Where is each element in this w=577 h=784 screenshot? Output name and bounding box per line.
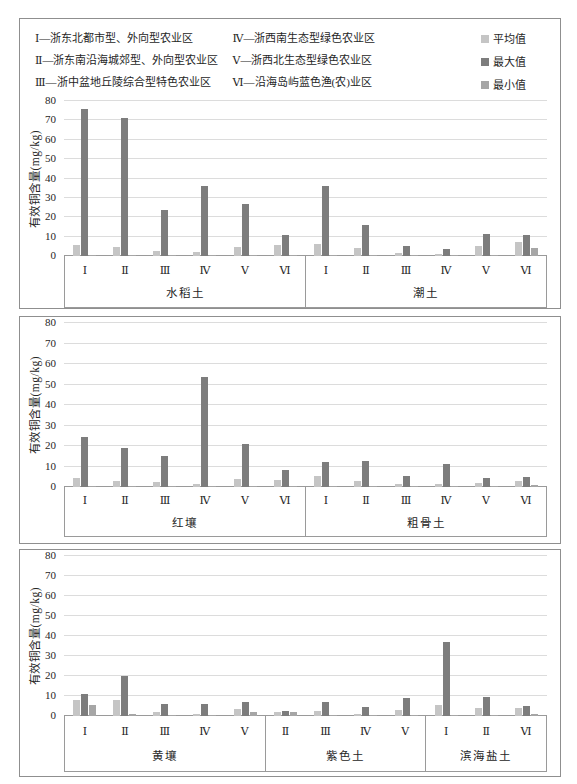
legend-label-minimum: 最小值 xyxy=(493,79,526,91)
chart-yellow-purple-saline: 有效铜含量(mg/kg)01020304050607080ⅠⅡⅢⅣⅤ黄壤ⅡⅢⅣⅤ… xyxy=(20,550,560,772)
zone-label-Ⅴ: Ⅴ xyxy=(225,264,265,277)
bar-avg xyxy=(274,712,281,716)
bar-min xyxy=(129,714,136,716)
zone-label-Ⅳ: Ⅳ xyxy=(426,494,466,507)
zone-labels-row: ⅠⅡⅢⅣⅤⅥ xyxy=(306,487,546,511)
y-tick-label: 30 xyxy=(24,191,56,204)
bar-group-水稻土-Ⅳ xyxy=(185,101,225,256)
bar-group-水稻土-Ⅱ xyxy=(104,101,144,256)
bar-max xyxy=(322,702,329,716)
bar-max xyxy=(362,707,369,716)
legend-label-average: 平均值 xyxy=(493,33,526,45)
bar-avg xyxy=(475,708,482,716)
bar-group-粗骨土-Ⅳ xyxy=(426,323,466,487)
bar-avg xyxy=(475,246,482,256)
zone-definitions-col-1: Ⅰ—浙东北都市型、外向型农业区 Ⅱ—浙东南沿海城郊型、外向型农业区 Ⅲ—浙中盆地… xyxy=(35,31,218,89)
bar-avg xyxy=(314,244,321,256)
y-tick-label: 50 xyxy=(24,609,56,622)
y-tick-label: 10 xyxy=(24,689,56,702)
series-legend: 平均值 最大值 最小值 xyxy=(481,31,550,91)
y-tick-label: 10 xyxy=(24,230,56,243)
bar-group-黄壤-Ⅳ xyxy=(185,556,225,716)
y-tick-label: 70 xyxy=(24,113,56,126)
figure-legend: Ⅰ—浙东北都市型、外向型农业区 Ⅱ—浙东南沿海城郊型、外向型农业区 Ⅲ—浙中盆地… xyxy=(20,19,560,93)
figure-page: Ⅰ—浙东北都市型、外向型农业区 Ⅱ—浙东南沿海城郊型、外向型农业区 Ⅲ—浙中盆地… xyxy=(0,0,577,784)
y-tick-label: 40 xyxy=(24,398,56,411)
bar-group-紫色土-Ⅴ xyxy=(386,556,426,716)
zone-label-Ⅲ: Ⅲ xyxy=(386,494,426,507)
average-swatch-icon xyxy=(481,35,489,43)
zone-label-Ⅵ: Ⅵ xyxy=(506,494,546,507)
bar-min xyxy=(209,486,216,487)
y-tick-label: 80 xyxy=(24,94,56,107)
soil-section-粗骨土: ⅠⅡⅢⅣⅤⅥ粗骨土 xyxy=(306,487,546,536)
zone-label-Ⅰ: Ⅰ xyxy=(65,494,105,507)
bar-avg xyxy=(395,484,402,487)
y-tick-label: 0 xyxy=(24,480,56,493)
bar-max xyxy=(161,456,168,487)
bar-max xyxy=(403,246,410,256)
bar-avg xyxy=(354,248,361,256)
zone-label-Ⅱ: Ⅱ xyxy=(346,494,386,507)
bar-avg xyxy=(435,705,442,716)
zone-label-Ⅵ: Ⅵ xyxy=(506,725,546,738)
zone-label-Ⅲ: Ⅲ xyxy=(306,725,346,738)
y-tick-label: 60 xyxy=(24,133,56,146)
y-tick-label: 40 xyxy=(24,172,56,185)
bar-max xyxy=(242,204,249,256)
bar-group-粗骨土-Ⅴ xyxy=(467,323,507,487)
zone-label-Ⅲ: Ⅲ xyxy=(145,725,185,738)
bar-max xyxy=(483,697,490,716)
bar-max xyxy=(201,377,208,487)
soil-section-滨海盐土: ⅠⅡⅥ滨海盐土 xyxy=(426,716,546,771)
legend-label-maximum: 最大值 xyxy=(493,56,526,68)
bar-max xyxy=(81,109,88,256)
bar-min xyxy=(290,255,297,256)
bar-avg xyxy=(193,714,200,716)
zone-definitions-col-2: Ⅳ—浙西南生态型绿色农业区 Ⅴ—浙西北生态型绿色农业区 Ⅵ—沿海岛屿蓝色渔(农)… xyxy=(232,31,375,89)
bar-max xyxy=(161,704,168,716)
bar-min xyxy=(129,255,136,256)
bar-max xyxy=(523,706,530,716)
bar-max xyxy=(201,704,208,716)
bar-avg xyxy=(73,478,80,487)
soil-section-潮土: ⅠⅡⅢⅣⅤⅥ潮土 xyxy=(306,256,546,307)
zone-label-Ⅲ: Ⅲ xyxy=(145,264,185,277)
soil-section-红壤: ⅠⅡⅢⅣⅤⅥ红壤 xyxy=(65,487,306,536)
bar-avg xyxy=(234,479,241,487)
bar-avg xyxy=(73,245,80,256)
bar-max xyxy=(523,235,530,256)
zone-def-4: Ⅳ—浙西南生态型绿色农业区 xyxy=(232,31,375,45)
bar-min xyxy=(209,255,216,256)
zone-label-Ⅲ: Ⅲ xyxy=(386,264,426,277)
bar-avg xyxy=(153,482,160,487)
bar-min xyxy=(370,486,377,487)
bar-min xyxy=(89,255,96,256)
bar-min xyxy=(531,248,538,256)
zone-label-Ⅴ: Ⅴ xyxy=(225,494,265,507)
bar-max xyxy=(322,462,329,487)
bar-avg xyxy=(234,247,241,256)
y-tick-label: 60 xyxy=(24,357,56,370)
bar-max xyxy=(121,118,128,256)
y-tick-label: 50 xyxy=(24,152,56,165)
soil-name-label: 粗骨土 xyxy=(306,511,546,536)
zone-labels-row: ⅠⅡⅥ xyxy=(426,716,546,743)
bar-max xyxy=(282,711,289,716)
zone-labels-row: ⅡⅢⅣⅤ xyxy=(266,716,426,743)
plot-area: 有效铜含量(mg/kg)01020304050607080 xyxy=(64,101,547,256)
soil-name-label: 红壤 xyxy=(65,511,305,536)
bar-group-粗骨土-Ⅲ xyxy=(386,323,426,487)
minimum-swatch-icon xyxy=(481,81,489,89)
bar-min xyxy=(129,486,136,487)
zone-labels-row: ⅠⅡⅢⅣⅤⅥ xyxy=(65,256,305,281)
y-tick-label: 10 xyxy=(24,460,56,473)
bar-max xyxy=(523,477,530,487)
zone-label-Ⅴ: Ⅴ xyxy=(466,264,506,277)
zone-label-Ⅲ: Ⅲ xyxy=(145,494,185,507)
bar-min xyxy=(411,486,418,487)
bar-avg xyxy=(274,245,281,256)
zone-def-1: Ⅰ—浙东北都市型、外向型农业区 xyxy=(35,31,218,45)
bar-max xyxy=(81,694,88,716)
y-tick-label: 20 xyxy=(24,210,56,223)
